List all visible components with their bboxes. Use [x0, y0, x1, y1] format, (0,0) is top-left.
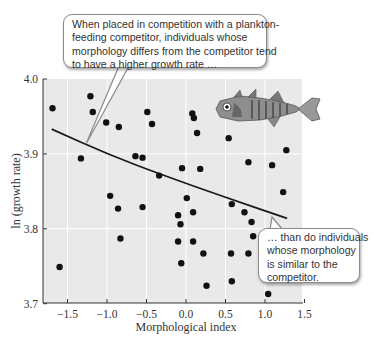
data-point — [197, 166, 203, 172]
data-point — [190, 209, 196, 215]
x-axis-title: Morphological index — [136, 320, 237, 334]
data-point — [245, 159, 251, 165]
data-point — [175, 212, 181, 218]
data-point — [78, 155, 84, 161]
y-tick-label: 3.7 — [24, 298, 39, 310]
data-point — [283, 147, 289, 153]
data-point — [248, 219, 254, 225]
data-point — [87, 93, 93, 99]
data-point — [184, 195, 190, 201]
data-point — [139, 154, 145, 160]
x-tick-label: 1.0 — [258, 308, 273, 320]
callout-bottom: … than do individuals whose morphology i… — [258, 228, 360, 283]
callout-bottom-line: whose morphology — [267, 244, 355, 257]
data-point — [90, 109, 96, 115]
data-point — [116, 124, 122, 130]
data-point — [156, 172, 162, 178]
data-point — [241, 209, 247, 215]
callout-bottom-line: competitor. — [267, 271, 355, 284]
data-point — [149, 121, 155, 127]
callout-bottom-line: … than do individuals — [267, 231, 355, 244]
data-point — [49, 105, 55, 111]
x-tick-label: 0.5 — [218, 308, 233, 320]
callout-top-line: feeding competitor, individuals whose — [72, 31, 260, 44]
x-tick-label: −1.5 — [57, 308, 78, 320]
y-tick-label: 3.9 — [24, 148, 39, 160]
data-point — [191, 115, 197, 121]
data-point — [117, 235, 123, 241]
x-tick-label: 1.5 — [297, 308, 312, 320]
data-point — [265, 291, 271, 297]
data-point — [229, 201, 235, 207]
data-point — [194, 130, 200, 136]
data-point — [175, 238, 181, 244]
callout-top-line: When placed in competition with a plankt… — [72, 18, 260, 31]
x-tick-label: 0.0 — [179, 308, 194, 320]
data-point — [179, 165, 185, 171]
data-point — [56, 264, 62, 270]
callout-top: When placed in competition with a plankt… — [63, 14, 267, 68]
y-axis-title: ln (growth rate) — [9, 153, 23, 228]
data-point — [103, 119, 109, 125]
data-point — [228, 250, 234, 256]
data-point — [250, 233, 256, 239]
data-point — [280, 189, 286, 195]
callout-top-line: morphology differs from the competitor t… — [72, 45, 260, 58]
data-point — [269, 162, 275, 168]
data-point — [225, 135, 231, 141]
y-tick-label: 3.8 — [24, 223, 39, 235]
callout-bottom-line: is similar to the — [267, 258, 355, 271]
data-point — [139, 204, 145, 210]
data-point — [229, 278, 235, 284]
data-point — [190, 238, 196, 244]
callout-top-line: to have a higher growth rate … — [72, 58, 260, 71]
data-point — [107, 193, 113, 199]
x-tick-label: −0.5 — [136, 308, 157, 320]
y-tick-label: 4.0 — [24, 73, 39, 85]
data-point — [245, 250, 251, 256]
data-point — [144, 109, 150, 115]
data-point — [115, 205, 121, 211]
data-point — [177, 221, 183, 227]
data-point — [203, 283, 209, 289]
data-point — [132, 153, 138, 159]
data-point — [178, 260, 184, 266]
x-tick-label: −1.0 — [97, 308, 118, 320]
data-point — [200, 250, 206, 256]
